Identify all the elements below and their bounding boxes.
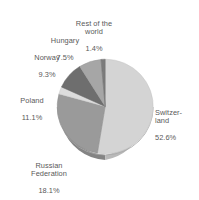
pie-label-switzerland-name: Switzer- land [155,109,197,126]
pie-label-poland-value: 11.1% [8,114,56,123]
pie-label-russian-federation-name: Russian Federation [18,162,80,179]
pie-label-poland-name: Poland [8,97,56,106]
pie-label-poland: Poland 11.1% [8,88,56,131]
pie-slices [57,59,153,154]
pie-slice-switzerland[interactable] [97,59,153,154]
pie-label-russian-federation: Russian Federation 18.1% [18,153,80,200]
pie-label-switzerland-value: 52.6% [155,134,197,143]
pie-label-hungary-name: Hungary [42,37,88,46]
pie-label-norway-value: 9.3% [24,71,70,80]
pie-label-norway-name: Norway [24,54,70,63]
pie-chart: Rest of the world 1.4% Hungary 7.5% Norw… [0,0,199,200]
pie-label-russian-federation-value: 18.1% [18,187,80,196]
pie-label-norway: Norway 9.3% [24,45,70,88]
pie-label-switzerland: Switzer- land 52.6% [155,100,197,152]
